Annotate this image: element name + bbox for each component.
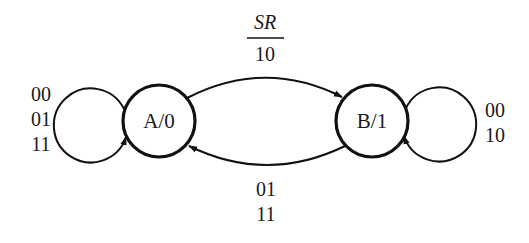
self-loop-b-arrow — [404, 87, 476, 161]
bottom-arc-labels: 01 11 — [256, 178, 276, 225]
right-loop-labels: 00 10 — [485, 99, 505, 146]
state-b: B/1 — [336, 85, 408, 157]
top-arc-label: 10 — [255, 43, 275, 65]
right-loop-label-0: 00 — [485, 99, 505, 121]
state-b-label: B/1 — [357, 109, 387, 133]
input-header-label: SR — [254, 11, 276, 33]
right-loop-label-1: 10 — [485, 124, 505, 146]
self-loop-a — [54, 88, 126, 162]
bottom-arc-label-1: 11 — [256, 203, 275, 225]
transition-a-to-b-arrow — [187, 78, 342, 98]
self-loop-b — [404, 87, 476, 161]
left-loop-label-2: 11 — [31, 133, 50, 155]
state-a-label: A/0 — [143, 109, 175, 133]
self-loop-a-arrow — [54, 88, 126, 162]
left-loop-label-1: 01 — [31, 108, 51, 130]
left-loop-labels: 00 01 11 — [31, 83, 51, 155]
state-a: A/0 — [123, 85, 195, 157]
bottom-arc-label-0: 01 — [256, 178, 276, 200]
transition-b-to-a-arrow — [189, 146, 345, 165]
state-diagram: A/0 B/1 SR 10 00 01 11 00 10 01 11 — [0, 0, 529, 243]
left-loop-label-0: 00 — [31, 83, 51, 105]
